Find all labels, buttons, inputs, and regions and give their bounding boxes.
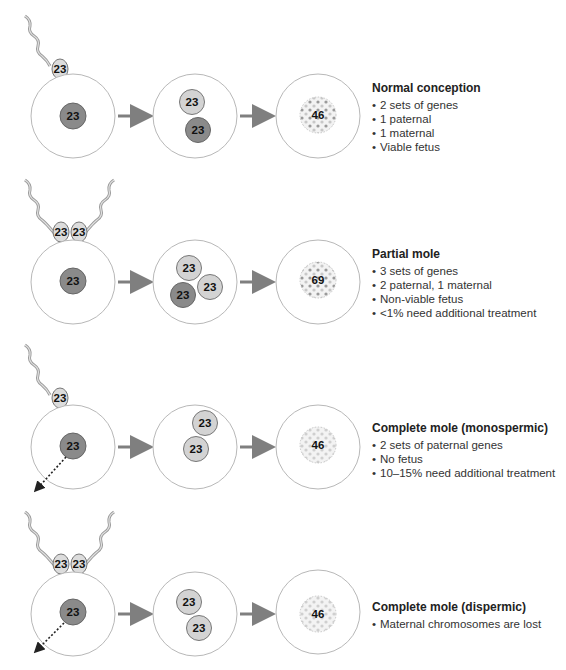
legend-bullet: Non-viable fetus xyxy=(372,292,566,306)
zygote-cell xyxy=(153,572,237,656)
svg-text:46: 46 xyxy=(312,109,325,121)
legend-bullets: Maternal chromosomes are lost xyxy=(372,617,566,631)
svg-text:23: 23 xyxy=(183,596,196,608)
svg-text:23: 23 xyxy=(186,96,199,108)
legend-title: Complete mole (monospermic) xyxy=(372,421,566,435)
legend-bullet: 10–15% need additional treatment xyxy=(372,466,566,480)
sperm-label: 23 xyxy=(54,63,67,75)
legend-partial-mole: Partial mole 3 sets of genes 2 paternal,… xyxy=(372,247,566,320)
svg-text:23: 23 xyxy=(199,417,212,429)
row-complete-mole-monospermic: 23 23 23 23 46 xyxy=(25,345,360,490)
legend-complete-mole-monospermic: Complete mole (monospermic) 2 sets of pa… xyxy=(372,421,566,480)
svg-text:23: 23 xyxy=(67,440,80,452)
legend-title: Complete mole (dispermic) xyxy=(372,600,566,614)
legend-bullet: 2 sets of genes xyxy=(372,98,566,112)
legend-normal-conception: Normal conception 2 sets of genes 1 pate… xyxy=(372,81,566,154)
legend-bullet: <1% need additional treatment xyxy=(372,306,566,320)
legend-bullet: Viable fetus xyxy=(372,140,566,154)
svg-text:23: 23 xyxy=(73,558,86,570)
svg-text:23: 23 xyxy=(177,289,190,301)
sperm-tail xyxy=(25,345,50,395)
row-complete-mole-dispermic: 23 23 23 23 23 46 xyxy=(25,512,360,656)
legend-bullets: 2 sets of genes 1 paternal 1 maternal Vi… xyxy=(372,98,566,154)
svg-text:23: 23 xyxy=(193,622,206,634)
legend-bullet: 2 sets of paternal genes xyxy=(372,438,566,452)
legend-bullet: Maternal chromosomes are lost xyxy=(372,617,566,631)
svg-text:23: 23 xyxy=(73,226,86,238)
svg-text:23: 23 xyxy=(67,110,80,122)
legend-bullet: No fetus xyxy=(372,452,566,466)
legend-complete-mole-dispermic: Complete mole (dispermic) Maternal chrom… xyxy=(372,600,566,631)
zygote-cell xyxy=(153,74,237,158)
svg-text:23: 23 xyxy=(192,124,205,136)
svg-text:23: 23 xyxy=(55,558,68,570)
svg-text:23: 23 xyxy=(55,226,68,238)
row-partial-mole: 23 23 23 23 23 23 69 xyxy=(25,180,360,324)
row-normal-conception: 23 23 23 23 46 xyxy=(25,16,360,158)
legend-bullet: 2 paternal, 1 maternal xyxy=(372,278,566,292)
svg-text:23: 23 xyxy=(54,392,67,404)
legend-bullets: 2 sets of paternal genes No fetus 10–15%… xyxy=(372,438,566,480)
svg-text:23: 23 xyxy=(204,281,217,293)
svg-text:23: 23 xyxy=(67,275,80,287)
svg-text:46: 46 xyxy=(312,608,325,620)
legend-bullets: 3 sets of genes 2 paternal, 1 maternal N… xyxy=(372,264,566,320)
legend-bullet: 3 sets of genes xyxy=(372,264,566,278)
svg-text:23: 23 xyxy=(190,443,203,455)
legend-title: Normal conception xyxy=(372,81,566,95)
legend-title: Partial mole xyxy=(372,247,566,261)
legend-bullet: 1 maternal xyxy=(372,126,566,140)
legend-bullet: 1 paternal xyxy=(372,112,566,126)
sperm-tail xyxy=(25,16,50,66)
svg-text:23: 23 xyxy=(67,606,80,618)
zygote-cell xyxy=(153,240,237,324)
svg-text:46: 46 xyxy=(312,439,325,451)
svg-text:69: 69 xyxy=(312,274,325,286)
svg-text:23: 23 xyxy=(183,262,196,274)
